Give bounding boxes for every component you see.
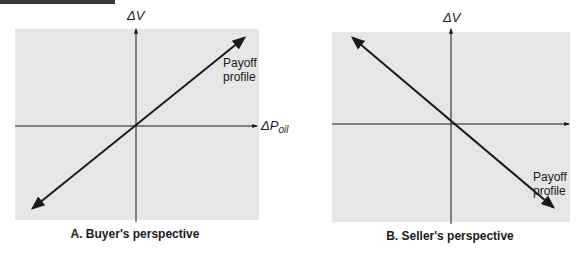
buyer-x-axis-label: ΔPoil bbox=[261, 118, 288, 135]
buyer-y-axis-label: ΔV bbox=[127, 8, 144, 23]
payoff-diagrams bbox=[0, 0, 582, 253]
seller-caption: B. Seller's perspective bbox=[375, 229, 525, 243]
seller-y-axis-label: ΔV bbox=[443, 10, 460, 25]
buyer-payoff-profile-label: Payoff profile bbox=[223, 56, 257, 84]
buyer-caption: A. Buyer's perspective bbox=[60, 227, 210, 241]
seller-payoff-profile-label: Payoff profile bbox=[533, 170, 567, 198]
